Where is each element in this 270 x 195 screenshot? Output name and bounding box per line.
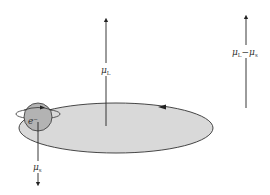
net-moment-label: μL−μs — [232, 47, 258, 58]
magnetic-moment-diagram: μL μL−μs e− μs — [0, 0, 270, 195]
